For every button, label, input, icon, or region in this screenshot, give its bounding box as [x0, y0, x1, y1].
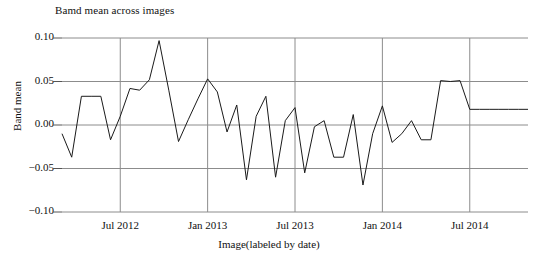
plot-area	[0, 0, 538, 264]
chart-container: Bamd mean across images Band mean Image(…	[0, 0, 538, 264]
gridlines	[62, 38, 528, 212]
axis-lines	[53, 38, 62, 212]
